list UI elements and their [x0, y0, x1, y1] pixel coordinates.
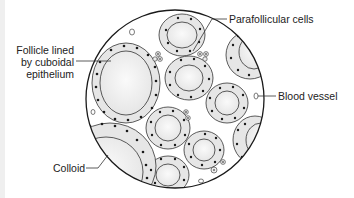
- label-parafollicular-cells: Parafollicular cells: [229, 13, 314, 25]
- follicle-right-middle: [206, 83, 248, 123]
- label-follicle-line3: epithelium: [4, 68, 74, 80]
- follicle-large: [92, 43, 160, 123]
- label-blood-vessel: Blood vessel: [278, 90, 338, 102]
- follicle-mid-lower: [146, 107, 190, 149]
- label-follicle: Follicle lined by cuboidal epithelium: [4, 44, 74, 80]
- label-follicle-line2: by cuboidal: [4, 56, 74, 68]
- label-colloid: Colloid: [53, 162, 85, 174]
- follicle-right-lower: [233, 116, 277, 164]
- colloid-leader: [86, 155, 108, 168]
- follicle-center: [165, 56, 213, 100]
- follicle-right-upper: [226, 31, 274, 79]
- follicle-top: [159, 14, 205, 56]
- label-follicle-line1: Follicle lined: [4, 44, 74, 56]
- follicle-lower-right: [184, 131, 224, 169]
